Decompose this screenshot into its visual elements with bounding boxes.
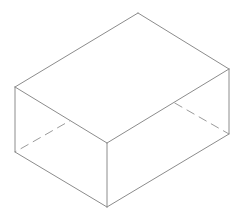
wireframe-box-figure <box>0 0 244 215</box>
drawing-canvas <box>0 0 244 215</box>
